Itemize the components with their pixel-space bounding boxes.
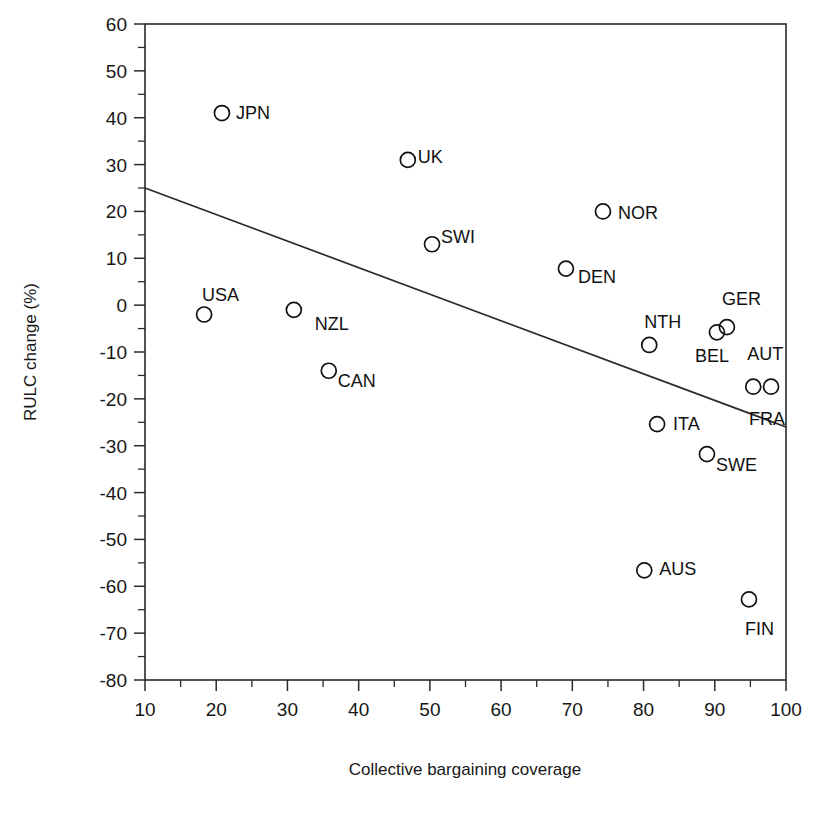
x-tick-label-70: 70	[562, 699, 583, 720]
y-tick-label-30: 30	[106, 155, 127, 176]
point-label-usa: USA	[202, 285, 239, 305]
scatter-plot: 1020304050607080901006050403020100-10-20…	[0, 0, 815, 820]
data-point-uk[interactable]: UK	[400, 147, 443, 168]
marker-jpn	[214, 106, 229, 121]
point-label-jpn: JPN	[236, 103, 270, 123]
point-label-fin: FIN	[745, 619, 774, 639]
y-tick-label-10: 10	[106, 248, 127, 269]
y-tick-label--20: -20	[100, 389, 127, 410]
marker-aus	[637, 563, 652, 578]
point-label-den: DEN	[578, 267, 616, 287]
marker-den	[558, 261, 573, 276]
x-tick-label-40: 40	[348, 699, 369, 720]
point-label-nzl: NZL	[315, 314, 349, 334]
data-point-bel[interactable]: BEL	[695, 325, 729, 367]
y-axis-title: RULC change (%)	[21, 283, 40, 421]
x-tick-label-100: 100	[770, 699, 802, 720]
point-label-uk: UK	[418, 147, 443, 167]
marker-nor	[595, 204, 610, 219]
data-point-aus[interactable]: AUS	[637, 559, 697, 579]
point-label-ita: ITA	[673, 414, 700, 434]
data-point-nor[interactable]: NOR	[595, 203, 658, 223]
marker-nth	[642, 337, 657, 352]
marker-swi	[425, 237, 440, 252]
point-label-ger: GER	[722, 289, 761, 309]
x-tick-label-80: 80	[633, 699, 654, 720]
marker-nzl	[286, 302, 301, 317]
y-tick-label--70: -70	[100, 623, 127, 644]
y-tick-label--60: -60	[100, 576, 127, 597]
chart-canvas: 1020304050607080901006050403020100-10-20…	[0, 0, 815, 820]
data-point-nth[interactable]: NTH	[642, 312, 682, 353]
x-tick-label-10: 10	[134, 699, 155, 720]
data-point-usa[interactable]: USA	[197, 285, 240, 323]
data-point-aut[interactable]: AUT	[746, 344, 784, 395]
point-label-can: CAN	[338, 371, 376, 391]
data-point-swe[interactable]: SWE	[699, 447, 757, 476]
y-tick-label--40: -40	[100, 483, 127, 504]
x-tick-label-30: 30	[277, 699, 298, 720]
y-tick-label-20: 20	[106, 201, 127, 222]
point-label-aus: AUS	[659, 559, 696, 579]
point-label-bel: BEL	[695, 346, 729, 366]
point-label-swe: SWE	[716, 455, 757, 475]
data-point-nzl[interactable]: NZL	[286, 302, 349, 334]
y-tick-label-0: 0	[116, 295, 127, 316]
data-point-ger[interactable]: GER	[719, 289, 761, 335]
y-tick-label-50: 50	[106, 61, 127, 82]
x-axis-title: Collective bargaining coverage	[349, 760, 581, 779]
data-point-swi[interactable]: SWI	[425, 227, 476, 252]
marker-ita	[650, 417, 665, 432]
data-point-fra[interactable]: FRA	[749, 379, 785, 429]
y-tick-label-40: 40	[106, 108, 127, 129]
marker-usa	[197, 307, 212, 322]
data-point-den[interactable]: DEN	[558, 261, 616, 287]
data-point-fin[interactable]: FIN	[741, 592, 774, 640]
point-label-nor: NOR	[618, 203, 658, 223]
marker-fin	[741, 592, 756, 607]
regression-line	[145, 188, 786, 427]
data-point-ita[interactable]: ITA	[650, 414, 700, 434]
marker-fra	[764, 379, 779, 394]
marker-swe	[699, 447, 714, 462]
point-label-swi: SWI	[441, 227, 475, 247]
x-tick-label-50: 50	[419, 699, 440, 720]
y-tick-label--50: -50	[100, 529, 127, 550]
point-label-nth: NTH	[644, 312, 681, 332]
data-point-group: JPNUKNORSWIDENUSANZLNTHBELGERCANAUTFRAIT…	[197, 103, 785, 639]
data-point-can[interactable]: CAN	[321, 363, 376, 391]
point-label-fra: FRA	[749, 409, 785, 429]
y-tick-label--80: -80	[100, 670, 127, 691]
x-tick-label-60: 60	[491, 699, 512, 720]
y-tick-label-60: 60	[106, 14, 127, 35]
marker-uk	[400, 152, 415, 167]
marker-aut	[746, 379, 761, 394]
y-tick-label--10: -10	[100, 342, 127, 363]
tick-label-group: 1020304050607080901006050403020100-10-20…	[100, 14, 802, 720]
data-point-jpn[interactable]: JPN	[214, 103, 270, 123]
x-tick-label-90: 90	[704, 699, 725, 720]
major-tick-group	[134, 24, 786, 691]
point-label-aut: AUT	[747, 344, 783, 364]
marker-can	[321, 363, 336, 378]
minor-tick-group	[138, 47, 750, 687]
y-tick-label--30: -30	[100, 436, 127, 457]
x-tick-label-20: 20	[206, 699, 227, 720]
